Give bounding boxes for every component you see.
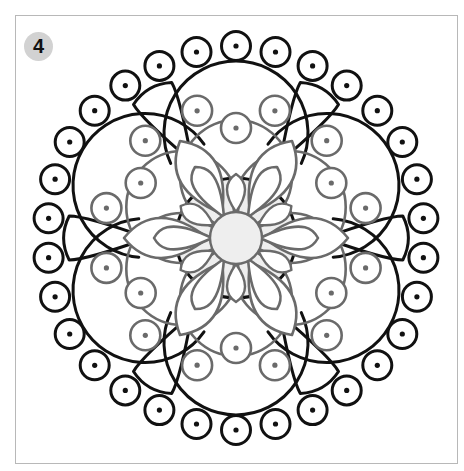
gray-dotted-circle-dot	[329, 180, 334, 185]
outer-dotted-circle-dot	[123, 388, 128, 393]
outer-dotted-circle-dot	[414, 177, 419, 182]
gray-dotted-circle-dot	[272, 108, 277, 113]
gray-dotted-circle-dot	[143, 138, 148, 143]
outer-dotted-circle-dot	[273, 49, 278, 54]
outer-dotted-circle-dot	[414, 294, 419, 299]
outer-dotted-circle-dot	[194, 49, 199, 54]
outer-dotted-circle-dot	[157, 408, 162, 413]
outer-dotted-circle-dot	[92, 363, 97, 368]
outer-dotted-circle-dot	[67, 139, 72, 144]
gray-dotted-circle-dot	[272, 363, 277, 368]
gray-dotted-circle-dot	[143, 333, 148, 338]
gray-dotted-circle-dot	[138, 290, 143, 295]
outer-dotted-circle-dot	[46, 255, 51, 260]
outer-dotted-circle-dot	[400, 139, 405, 144]
gray-dotted-circle-dot	[324, 138, 329, 143]
outer-dotted-circle-dot	[46, 216, 51, 221]
outer-dotted-circle-dot	[344, 388, 349, 393]
mandala-drawing	[0, 0, 464, 471]
outer-dotted-circle-dot	[123, 83, 128, 88]
gray-dotted-circle-dot	[233, 125, 238, 130]
outer-dotted-circle-dot	[53, 177, 58, 182]
outer-dotted-circle-dot	[157, 63, 162, 68]
outer-dotted-circle-dot	[421, 255, 426, 260]
gray-dotted-circle-dot	[233, 345, 238, 350]
outer-dotted-circle-dot	[310, 408, 315, 413]
gray-dotted-circle-dot	[104, 265, 109, 270]
outer-dotted-circle-dot	[273, 421, 278, 426]
gray-dotted-circle-dot	[138, 180, 143, 185]
outer-dotted-circle-dot	[344, 83, 349, 88]
outer-dotted-circle-dot	[375, 363, 380, 368]
outer-dotted-circle-dot	[375, 108, 380, 113]
gray-dotted-circle-dot	[195, 363, 200, 368]
gray-dotted-circle-dot	[195, 108, 200, 113]
gray-dotted-circle-dot	[104, 206, 109, 211]
outer-dotted-circle-dot	[421, 216, 426, 221]
outer-dotted-circle-dot	[194, 421, 199, 426]
center-circle	[210, 212, 262, 264]
outer-dotted-circle-dot	[310, 63, 315, 68]
outer-dotted-circle-dot	[233, 43, 238, 48]
gray-dotted-circle-dot	[329, 290, 334, 295]
outer-dotted-circle-dot	[92, 108, 97, 113]
outer-dotted-circle-dot	[67, 331, 72, 336]
gray-dotted-circle-dot	[324, 333, 329, 338]
outer-dotted-circle-dot	[53, 294, 58, 299]
outer-dotted-circle-dot	[233, 427, 238, 432]
outer-dotted-circle-dot	[400, 331, 405, 336]
gray-dotted-circle-dot	[363, 265, 368, 270]
gray-dotted-circle-dot	[363, 206, 368, 211]
